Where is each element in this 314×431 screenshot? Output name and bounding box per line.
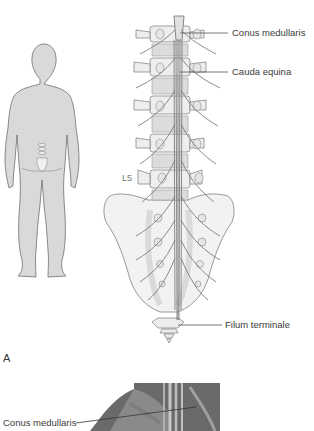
coccyx [152, 318, 184, 343]
label-cauda-equina: Cauda equina [232, 67, 291, 77]
label-photo-conus-medullaris: Conus medullaris [3, 418, 76, 428]
label-l5: L5 [122, 174, 132, 183]
human-body-silhouette [0, 0, 314, 431]
sacrum-pelvis [104, 194, 234, 312]
label-conus-medullaris: Conus medullaris [232, 28, 305, 38]
label-filum-terminale: Filum terminale [225, 320, 290, 330]
panel-letter-a: A [3, 352, 10, 364]
photo-render [90, 383, 240, 431]
cadaver-photograph [90, 383, 240, 431]
